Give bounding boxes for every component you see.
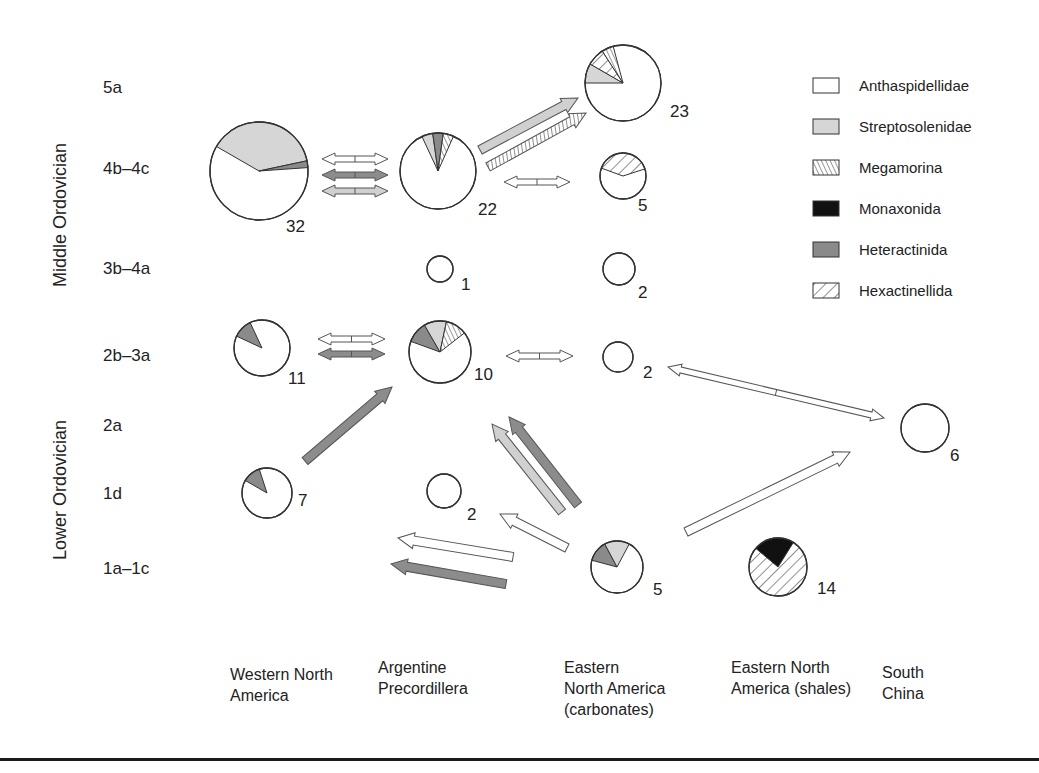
arrow-anthaspidellidae (667, 361, 886, 424)
region-label-line: North America (564, 680, 665, 697)
pie-2b3a-6 (234, 320, 290, 376)
arrow-anthaspidellidae (397, 530, 515, 565)
pie-5a-2 (585, 45, 661, 121)
pie-2b3a-7 (409, 321, 471, 383)
count-label: 2 (638, 283, 647, 302)
arrow-heteractinida (300, 381, 397, 467)
period-axis: Middle OrdovicianLower Ordovician (50, 143, 70, 560)
region-label-wna: Western North America (230, 666, 333, 704)
region-label-line: Western North (230, 666, 333, 683)
region-label-line: Precordillera (378, 680, 468, 697)
stage-label-2b-3a: 2b–3a (103, 346, 151, 365)
region-label-line: Eastern (564, 659, 619, 676)
count-label: 6 (950, 446, 959, 465)
legend-label: Hexactinellida (859, 282, 953, 299)
region-label-line: China (882, 685, 924, 702)
pie-1a1c-13 (749, 538, 807, 596)
legend-swatch-anthaspidellidae (813, 78, 839, 93)
legend: AnthaspidellidaeStreptosolenidaeMegamori… (813, 77, 972, 299)
arrow-heteractinida (390, 556, 508, 592)
legend-swatch-heteractinida (813, 242, 839, 257)
pie-4b4c-1 (400, 133, 476, 209)
arrow-streptosolenidae (322, 185, 388, 197)
region-label-sc: SouthChina (882, 664, 924, 702)
count-label: 5 (638, 196, 647, 215)
legend-item-megamorina: Megamorina (813, 159, 943, 176)
region-label-enas: Eastern NorthAmerica (shales) (731, 659, 851, 697)
period-label: Middle Ordovician (50, 143, 70, 287)
region-label-ap: ArgentinePrecordillera (378, 659, 468, 697)
region-labels: Western North AmericaArgentinePrecordill… (230, 659, 924, 718)
region-label-line: South (882, 664, 924, 681)
stage-label-4b-4c: 4b–4c (103, 159, 150, 178)
region-label-line: Argentine (378, 659, 447, 676)
arrow-anthaspidellidae (504, 176, 570, 188)
region-label-line: (carbonates) (564, 701, 654, 718)
pie-2b3a-8 (603, 342, 633, 372)
count-label: 2 (467, 505, 476, 524)
pie-1d-11 (427, 474, 461, 508)
pie-4b4c-0 (210, 122, 308, 220)
count-label: 10 (474, 365, 493, 384)
arrow-anthaspidellidae (682, 445, 853, 539)
legend-swatch-streptosolenidae (813, 119, 839, 134)
region-label-enac: EasternNorth America(carbonates) (564, 659, 665, 718)
region-label-line: America (shales) (731, 680, 851, 697)
dispersal-arrows (300, 91, 886, 592)
pie-1a1c-12 (591, 541, 643, 593)
region-label-line: America (230, 687, 289, 704)
pie-2a-9 (901, 404, 949, 452)
legend-label: Anthaspidellidae (859, 77, 969, 94)
stage-label-5a: 5a (103, 78, 122, 97)
count-label: 5 (653, 580, 662, 599)
count-label: 22 (478, 200, 497, 219)
legend-label: Streptosolenidae (859, 118, 972, 135)
count-label: 14 (817, 579, 836, 598)
arrow-heteractinida (322, 169, 388, 181)
legend-swatch-hexactinellida (813, 283, 839, 298)
count-label: 32 (286, 217, 305, 236)
count-label: 23 (670, 102, 689, 121)
legend-swatch-megamorina (813, 160, 839, 175)
pie-1d-10 (242, 468, 292, 518)
arrow-anthaspidellidae (318, 333, 385, 345)
legend-item-monaxonida: Monaxonida (813, 200, 941, 217)
legend-swatch-monaxonida (813, 201, 839, 216)
arrow-anthaspidellidae (506, 350, 573, 362)
legend-label: Monaxonida (859, 200, 941, 217)
stage-label-1d: 1d (103, 484, 122, 503)
count-label: 7 (298, 491, 307, 510)
legend-label: Megamorina (859, 159, 943, 176)
legend-item-heteractinida: Heteractinida (813, 241, 948, 258)
legend-item-hexactinellida: Hexactinellida (813, 282, 953, 299)
stage-label-2a: 2a (103, 416, 122, 435)
pie-3b4a-4 (427, 256, 453, 282)
count-label: 1 (461, 275, 470, 294)
stage-label-3b-4a: 3b–4a (103, 259, 151, 278)
legend-item-streptosolenidae: Streptosolenidae (813, 118, 972, 135)
pie-4b4c-3 (600, 153, 646, 199)
pie-3b4a-5 (603, 253, 635, 285)
diagram-canvas: 5a4b–4c3b–4a2b–3a2a1d1a–1c Middle Ordovi… (0, 0, 1039, 773)
region-label-line: Eastern North (731, 659, 830, 676)
stage-axis: 5a4b–4c3b–4a2b–3a2a1d1a–1c (103, 78, 151, 578)
stage-label-1a-1c: 1a–1c (103, 559, 150, 578)
count-label: 2 (643, 363, 652, 382)
arrow-heteractinida (318, 348, 385, 360)
legend-item-anthaspidellidae: Anthaspidellidae (813, 77, 969, 94)
count-label: 11 (288, 369, 306, 388)
arrow-anthaspidellidae (322, 153, 388, 165)
bottom-rule (0, 758, 1039, 761)
period-label: Lower Ordovician (50, 420, 70, 560)
legend-label: Heteractinida (859, 241, 948, 258)
